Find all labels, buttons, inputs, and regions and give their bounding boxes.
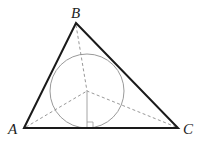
- vertex-label-B: B: [71, 5, 80, 21]
- vertex-label-C: C: [183, 121, 194, 137]
- diagram-canvas: B A C: [0, 0, 206, 141]
- bisector-from-A: [26, 91, 87, 127]
- triangle-incircle-figure: B A C: [0, 0, 206, 141]
- vertex-label-A: A: [7, 121, 18, 137]
- bisector-from-B: [76, 25, 87, 91]
- bisector-from-C: [87, 91, 176, 127]
- triangle-abc: [24, 23, 178, 128]
